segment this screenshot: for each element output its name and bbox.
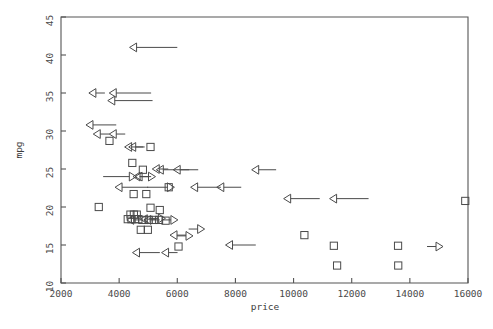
data-point-square	[95, 203, 102, 210]
data-point-square	[129, 159, 136, 166]
data-point-right-arrow	[171, 216, 178, 225]
x-tick-label: 10000	[279, 288, 308, 299]
axis-frame	[61, 17, 468, 283]
data-point-left-arrow	[284, 194, 291, 203]
data-point-left-arrow	[330, 194, 337, 203]
data-point-left-arrow	[86, 121, 93, 130]
data-point-square	[156, 206, 163, 213]
data-point-right-arrow	[436, 242, 443, 251]
y-tick-label: 35	[44, 91, 55, 102]
data-point-left-arrow	[93, 130, 100, 139]
data-point-left-arrow	[162, 248, 169, 257]
data-point-square	[147, 204, 154, 211]
data-point-left-arrow	[115, 183, 122, 192]
plot-canvas: 200040006000800010000120001400016000 101…	[0, 0, 493, 329]
data-point-right-arrow	[186, 231, 193, 240]
data-point-right-arrow	[167, 183, 174, 192]
y-tick-label: 40	[44, 53, 55, 65]
data-point-square	[395, 262, 402, 269]
y-tick-label: 25	[44, 167, 55, 178]
data-point-left-arrow	[89, 89, 96, 98]
x-tick-label: 12000	[337, 288, 366, 299]
data-point-square	[330, 242, 337, 249]
x-tick-label: 16000	[454, 288, 483, 299]
data-point-left-arrow	[252, 165, 259, 174]
x-tick-label: 14000	[396, 288, 425, 299]
data-point-left-arrow	[156, 165, 163, 174]
y-tick-label: 20	[44, 205, 55, 217]
y-tick-label: 10	[44, 281, 55, 293]
data-point-square	[137, 226, 144, 233]
data-point-square	[301, 232, 308, 239]
data-point-square	[143, 190, 150, 197]
scatter-plot-figure: 200040006000800010000120001400016000 101…	[0, 0, 493, 329]
data-point-left-arrow	[191, 183, 198, 192]
y-tick-label: 30	[44, 129, 55, 141]
data-point-left-arrow	[226, 241, 233, 250]
data-point-square	[394, 242, 401, 249]
x-tick-label: 6000	[166, 288, 189, 299]
y-tick-label: 15	[44, 243, 55, 254]
data-point-square	[106, 137, 113, 144]
y-axis-ticks: 1015202530354045	[44, 15, 66, 292]
data-point-left-arrow	[170, 231, 177, 240]
data-point-left-arrow	[130, 43, 137, 52]
y-axis-title: mpg	[13, 141, 24, 158]
data-point-square	[147, 143, 154, 150]
plot-frame	[61, 17, 468, 283]
data-point-square	[130, 190, 137, 197]
data-point-left-arrow	[132, 248, 139, 257]
x-tick-label: 4000	[108, 288, 131, 299]
x-axis-ticks: 200040006000800010000120001400016000	[50, 278, 483, 299]
data-point-square	[333, 262, 340, 269]
data-points-layer	[86, 43, 469, 269]
x-tick-label: 8000	[224, 288, 247, 299]
x-axis-title: price	[251, 301, 280, 312]
data-point-square	[144, 226, 151, 233]
y-tick-label: 45	[44, 15, 55, 26]
data-point-left-arrow	[108, 96, 115, 105]
data-point-right-arrow	[198, 225, 205, 234]
data-point-square	[175, 243, 182, 250]
